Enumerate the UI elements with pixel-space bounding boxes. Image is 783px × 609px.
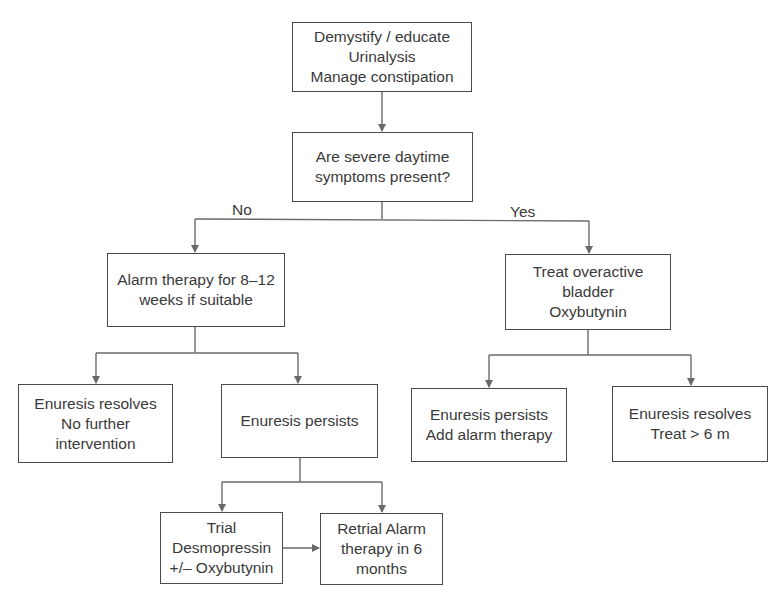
node-text: +/– Oxybutynin [170,558,274,578]
node-text: intervention [55,434,135,454]
node-text: Enuresis resolves [629,404,751,424]
node-resolves-left: Enuresis resolves No further interventio… [18,384,173,463]
node-text: No further [61,414,130,434]
node-text: Urinalysis [348,47,415,67]
node-text: Alarm therapy for 8–12 [117,270,275,290]
node-treat-oab: Treat overactive bladder Oxybutynin [505,254,671,330]
branch-label-yes: Yes [510,203,535,221]
node-trial-desmopressin: Trial Desmopressin +/– Oxybutynin [160,512,283,584]
node-text: Add alarm therapy [426,425,553,445]
node-retrial-alarm: Retrial Alarm therapy in 6 months [320,513,443,585]
node-text: Enuresis persists [240,411,358,431]
node-text: Enuresis resolves [34,394,156,414]
node-question: Are severe daytime symptoms present? [292,132,473,202]
node-start: Demystify / educate Urinalysis Manage co… [292,22,472,92]
node-text: Oxybutynin [549,302,627,322]
node-persists-right: Enuresis persists Add alarm therapy [411,388,567,462]
node-text: Trial [207,518,237,538]
node-text: Manage constipation [310,67,453,87]
node-text: Treat overactive [533,262,644,282]
node-text: Enuresis persists [430,405,548,425]
node-text: bladder [562,282,614,302]
node-text: therapy in 6 [341,539,422,559]
node-persists-left: Enuresis persists [221,384,378,458]
node-text: symptoms present? [315,167,450,187]
node-text: months [356,559,407,579]
node-text: Desmopressin [172,538,271,558]
node-text: Retrial Alarm [337,519,426,539]
node-text: weeks if suitable [139,290,253,310]
node-text: Are severe daytime [316,147,450,167]
node-text: Demystify / educate [314,27,450,47]
node-text: Treat > 6 m [650,424,729,444]
node-alarm-therapy: Alarm therapy for 8–12 weeks if suitable [107,253,285,327]
branch-label-no: No [232,201,252,219]
node-resolves-right: Enuresis resolves Treat > 6 m [612,386,768,462]
